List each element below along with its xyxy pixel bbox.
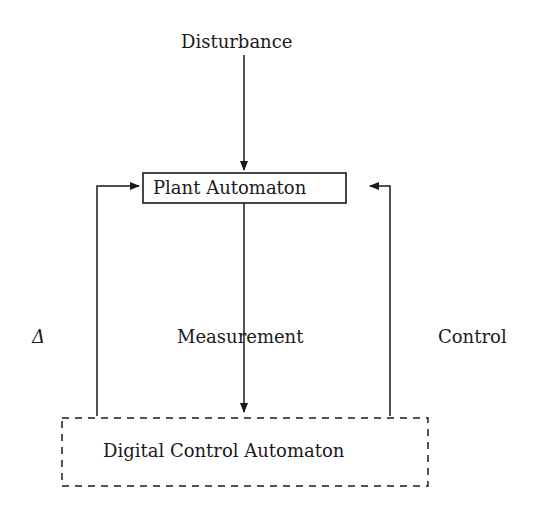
- plant-automaton-label: Plant Automaton: [153, 179, 306, 197]
- digital-control-automaton-label: Digital Control Automaton: [103, 442, 344, 460]
- delta-feedback-arrow: [97, 186, 139, 416]
- measurement-label: Measurement: [177, 328, 303, 346]
- delta-label: Δ: [32, 328, 45, 346]
- control-label: Control: [438, 328, 507, 346]
- control-feedback-arrow: [370, 186, 390, 416]
- disturbance-label: Disturbance: [181, 33, 292, 51]
